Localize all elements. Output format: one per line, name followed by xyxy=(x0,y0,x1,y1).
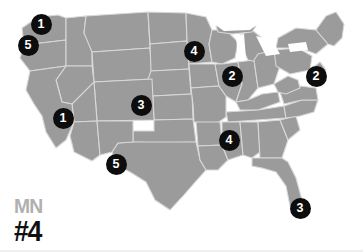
state-al xyxy=(240,122,260,158)
map-marker-oregon-washington-coast[interactable]: 5 xyxy=(18,35,39,56)
map-marker-texas-new-mexico[interactable]: 5 xyxy=(106,154,127,175)
state-tx xyxy=(112,142,206,210)
map-marker-minnesota[interactable]: 4 xyxy=(184,41,205,62)
state-wi xyxy=(209,30,238,64)
state-sd xyxy=(150,41,189,71)
map-marker-tennessee-mississippi[interactable]: 4 xyxy=(219,130,240,151)
state-ia xyxy=(189,64,219,88)
legend-rank: #4 xyxy=(14,217,43,246)
state-ks xyxy=(153,94,193,120)
state-mo xyxy=(191,86,226,124)
state-nd xyxy=(148,12,187,44)
map-marker-illinois-indiana[interactable]: 2 xyxy=(222,66,243,87)
map-marker-washington[interactable]: 1 xyxy=(31,14,52,35)
map-marker-florida[interactable]: 3 xyxy=(290,198,311,219)
legend-state-abbr: MN xyxy=(14,195,43,216)
map-marker-nebraska-kansas[interactable]: 3 xyxy=(131,95,152,116)
state-ok xyxy=(133,119,196,143)
map-marker-nevada-california[interactable]: 1 xyxy=(53,108,74,129)
state-mt xyxy=(84,12,150,52)
state-ar xyxy=(196,122,222,146)
state-pa xyxy=(274,48,312,74)
state-az xyxy=(70,121,100,161)
map-infographic: 1542231453 MN #4 xyxy=(0,0,363,252)
map-marker-new-york-new-jersey[interactable]: 2 xyxy=(306,66,327,87)
state-wy xyxy=(92,48,152,82)
legend: MN #4 xyxy=(14,195,45,246)
